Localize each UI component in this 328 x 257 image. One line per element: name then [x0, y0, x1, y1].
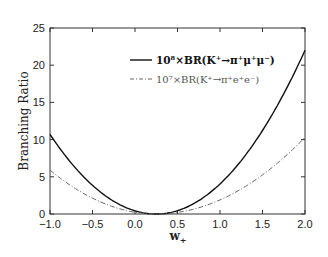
y-axis: 0510152025 [33, 22, 305, 220]
y-tick-label: 20 [33, 59, 45, 71]
x-tick-label: −1.0 [39, 218, 61, 230]
x-tick-label: 2.0 [297, 218, 312, 230]
y-tick-label: 25 [33, 22, 45, 34]
branching-ratio-chart: 0510152025 −1.0−0.50.00.51.01.52.0 10⁸×B… [0, 0, 328, 257]
legend-dashdot-label: 10⁷×BR(K⁺→π⁺e⁺e⁻) [156, 74, 259, 85]
series-line-dashdot [50, 137, 305, 214]
x-tick-label: 1.5 [255, 218, 270, 230]
y-tick-label: 15 [33, 96, 45, 108]
x-tick-label: 1.0 [212, 218, 227, 230]
x-tick-label: 0.0 [127, 218, 142, 230]
y-tick-label: 5 [39, 171, 45, 183]
y-axis-label: Branching Ratio [17, 71, 31, 170]
y-tick-label: 10 [33, 134, 45, 146]
legend: 10⁸×BR(K⁺→π⁺μ⁺μ⁻) 10⁷×BR(K⁺→π⁺e⁺e⁻) [130, 54, 275, 85]
legend-solid-label: 10⁸×BR(K⁺→π⁺μ⁺μ⁻) [156, 54, 275, 66]
x-axis-label: w+ [168, 229, 186, 245]
x-tick-label: −0.5 [82, 218, 104, 230]
